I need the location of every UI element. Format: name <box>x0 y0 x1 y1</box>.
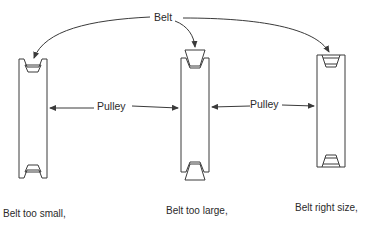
pulley-small-belt <box>19 59 47 178</box>
caption-belt-right-size: Belt right size, not riding bottom or ou… <box>295 179 370 228</box>
pulley-large-belt <box>181 50 209 180</box>
belt-leader-lines <box>34 17 329 58</box>
belt-pulley-diagram: Belt Pulley Pulley Belt too small, ridin… <box>0 0 388 228</box>
caption-belt-too-large: Belt too large, riding out of pulley <box>166 182 228 228</box>
caption-line: Belt too small, <box>3 208 66 220</box>
pulley-right-belt <box>317 55 345 167</box>
belt-label: Belt <box>154 11 172 23</box>
caption-line: Belt right size, <box>295 202 370 214</box>
caption-line: Belt too large, <box>166 205 228 217</box>
pulley-label-right: Pulley <box>250 98 279 110</box>
pulley-label-left: Pulley <box>97 100 126 112</box>
caption-belt-too-small: Belt too small, riding bottom of pulley <box>3 185 66 228</box>
